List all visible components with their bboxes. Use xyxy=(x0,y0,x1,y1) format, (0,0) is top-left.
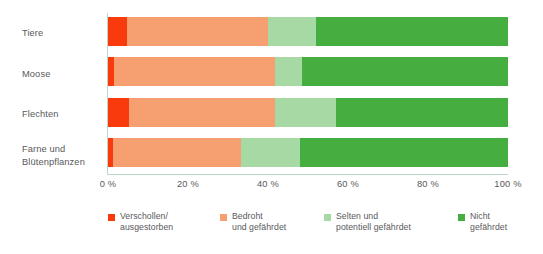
bar-segment xyxy=(275,98,336,127)
x-tick-label: 0 % xyxy=(100,178,117,191)
bar-row xyxy=(108,57,508,86)
bar-row xyxy=(108,98,508,127)
bar-row xyxy=(108,138,508,167)
legend-label: Bedroht und gefährdet xyxy=(232,211,286,234)
chart-legend: Verschollen/ ausgestorbenBedroht und gef… xyxy=(108,211,528,245)
bar-segment xyxy=(108,17,127,46)
category-label: Moose xyxy=(22,68,106,81)
legend-item[interactable]: Nicht gefährdet xyxy=(458,211,528,234)
category-label: Farne und Blütenpflanzen xyxy=(22,143,106,168)
bar-segment xyxy=(268,17,316,46)
bar-segment xyxy=(114,57,275,86)
stacked-bar-chart: TiereMooseFlechtenFarne und Blütenpflanz… xyxy=(0,0,543,254)
bar-segment xyxy=(302,57,508,86)
category-label: Flechten xyxy=(22,108,106,121)
legend-item[interactable]: Selten und potentiell gefährdet xyxy=(324,211,411,234)
legend-item[interactable]: Verschollen/ ausgestorben xyxy=(108,211,173,234)
legend-label: Selten und potentiell gefährdet xyxy=(336,211,411,234)
x-tick-label: 60 % xyxy=(337,178,359,191)
bar-segment xyxy=(108,98,129,127)
legend-item[interactable]: Bedroht und gefährdet xyxy=(220,211,286,234)
category-label: Tiere xyxy=(22,27,106,40)
bar-segment xyxy=(127,17,268,46)
x-tick-label: 100 % xyxy=(494,178,521,191)
legend-label: Verschollen/ ausgestorben xyxy=(120,211,173,234)
plot-area xyxy=(108,13,508,175)
bar-segment xyxy=(129,98,275,127)
bar-segment xyxy=(241,138,300,167)
bar-segment xyxy=(113,138,241,167)
category-axis-labels: TiereMooseFlechtenFarne und Blütenpflanz… xyxy=(0,0,104,176)
x-axis-line xyxy=(107,174,508,175)
bar-segment xyxy=(336,98,508,127)
legend-swatch-icon xyxy=(108,214,115,221)
legend-swatch-icon xyxy=(458,214,465,221)
x-tick-label: 20 % xyxy=(177,178,199,191)
x-axis-tick-labels: 0 %20 %40 %60 %80 %100 % xyxy=(108,178,508,194)
bar-segment xyxy=(300,138,508,167)
x-tick-label: 80 % xyxy=(417,178,439,191)
x-tick-label: 40 % xyxy=(257,178,279,191)
legend-label: Nicht gefährdet xyxy=(470,211,528,234)
bar-row xyxy=(108,17,508,46)
bar-segment xyxy=(316,17,508,46)
legend-swatch-icon xyxy=(220,214,227,221)
legend-swatch-icon xyxy=(324,214,331,221)
bar-segment xyxy=(275,57,302,86)
